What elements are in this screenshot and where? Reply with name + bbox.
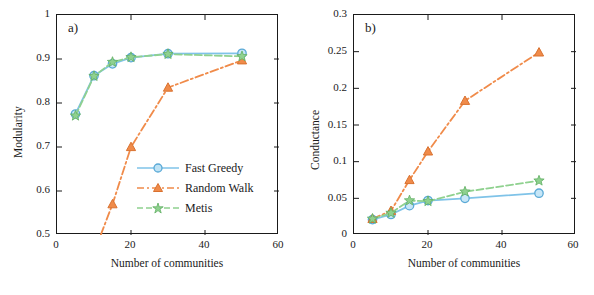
legend-sample-random-walk: [136, 181, 180, 195]
y-tick-b-5: 0.25: [307, 44, 347, 56]
x-tick-a-3: 60: [266, 238, 290, 250]
data-point-marker: [460, 96, 469, 104]
legend-label-metis: Metis: [185, 201, 212, 215]
y-tick-b-1: 0.05: [307, 191, 347, 203]
plot-area-b: [353, 14, 575, 234]
y-tick-a-1: 0.6: [10, 183, 50, 195]
x-tick-a-2: 40: [192, 238, 216, 250]
x-tick-b-2: 40: [489, 238, 513, 250]
plot-svg-b: [354, 15, 576, 235]
legend-a: Fast Greedy Random Walk Metis: [136, 158, 253, 218]
x-tick-b-3: 60: [561, 238, 585, 250]
figure-container: a) 0.5 0.6 0.7 0.8 0.9 1 0 20 40 60 Numb…: [0, 0, 594, 295]
legend-sample-fast-greedy: [136, 161, 180, 175]
legend-label-fast-greedy: Fast Greedy: [185, 161, 243, 175]
data-point-marker: [108, 199, 117, 207]
x-axis-title-b: Number of communities: [353, 257, 575, 269]
legend-item-metis: Metis: [136, 198, 253, 218]
series-line: [76, 53, 243, 114]
legend-item-fast-greedy: Fast Greedy: [136, 158, 253, 178]
panel-label-b: b): [365, 20, 376, 36]
legend-item-random-walk: Random Walk: [136, 178, 253, 198]
x-axis-title-a: Number of communities: [56, 257, 278, 269]
y-tick-a-4: 0.9: [10, 51, 50, 63]
y-tick-b-6: 0.3: [307, 7, 347, 19]
x-tick-a-0: 0: [44, 238, 68, 250]
y-axis-title-a: Modularity: [12, 106, 24, 158]
series-line: [373, 193, 540, 219]
y-axis-title-b: Conductance: [309, 110, 321, 170]
data-point-marker: [423, 147, 432, 155]
y-tick-a-5: 1: [10, 7, 50, 19]
x-tick-b-0: 0: [341, 238, 365, 250]
x-tick-a-1: 20: [118, 238, 142, 250]
series-line: [76, 54, 243, 116]
panel-a: a) 0.5 0.6 0.7 0.8 0.9 1 0 20 40 60 Numb…: [0, 0, 297, 295]
data-point-marker: [534, 48, 543, 56]
x-tick-b-1: 20: [415, 238, 439, 250]
legend-label-random-walk: Random Walk: [185, 181, 253, 195]
series-line: [373, 52, 540, 218]
legend-sample-metis: [136, 201, 180, 215]
panel-label-a: a): [68, 20, 78, 36]
data-point-marker: [535, 189, 543, 197]
data-point-marker: [534, 175, 544, 185]
y-tick-b-4: 0.2: [307, 81, 347, 93]
panel-b: b) 0 0.05 0.1 0.15 0.2 0.25 0.3 0 20 40 …: [297, 0, 594, 295]
